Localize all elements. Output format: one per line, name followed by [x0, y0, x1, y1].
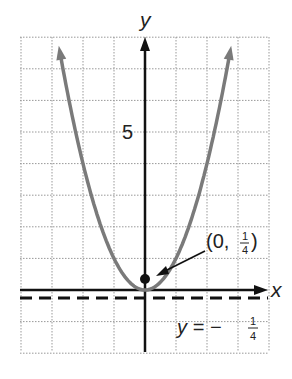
curve-arrow-right-icon — [224, 46, 234, 61]
focus-label-denominator: 4 — [242, 244, 248, 256]
y-axis-arrow-icon — [140, 37, 150, 51]
x-axis-label: x — [270, 278, 283, 301]
x-axis-arrow-icon — [254, 285, 268, 295]
directrix-label-numerator: 1 — [250, 315, 256, 327]
directrix-label-denominator: 4 — [250, 330, 256, 342]
focus-point — [140, 274, 150, 284]
y-axis-label: y — [138, 8, 152, 31]
curve-arrow-left-icon — [56, 46, 66, 61]
parabola-chart: y x 5 (0, 1 4 ) y = − 1 4 — [0, 0, 292, 379]
focus-label: (0, 1 4 ) — [206, 230, 258, 256]
directrix-label-prefix: y = − — [175, 316, 221, 338]
tick-label-5: 5 — [122, 121, 133, 143]
focus-label-numerator: 1 — [242, 230, 248, 242]
directrix-label: y = − 1 4 — [175, 315, 258, 342]
focus-label-prefix: (0, — [206, 230, 229, 252]
focus-pointer-line — [163, 251, 205, 272]
focus-label-suffix: ) — [251, 230, 258, 252]
